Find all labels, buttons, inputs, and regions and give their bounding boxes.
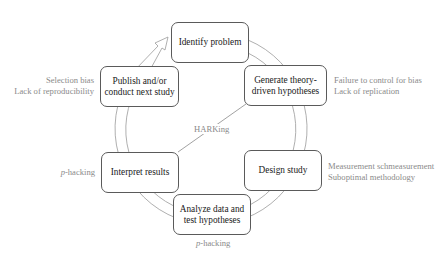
note-line: Suboptimal methodology (328, 172, 434, 183)
note-analyze-phacking: p-hacking (196, 238, 230, 249)
step-analyze-data: Analyze data and test hypotheses (173, 194, 251, 235)
note-line: Failure to control for bias (334, 75, 422, 86)
step-interpret-results: Interpret results (101, 152, 179, 193)
step-label: test hypotheses (180, 215, 245, 226)
step-label: Analyze data and (180, 204, 245, 215)
note-rest: -hacking (200, 238, 230, 248)
note-interpret-phacking: p-hacking (61, 167, 95, 178)
step-label: Design study (259, 165, 308, 176)
step-design-study: Design study (244, 150, 322, 191)
step-label: Interpret results (111, 167, 170, 178)
research-cycle-diagram: Identify problem Generate theory- driven… (0, 0, 447, 258)
step-label: driven hypotheses (252, 86, 319, 97)
step-identify-problem: Identify problem (171, 22, 249, 63)
note-line: Measurement schmeasurement (328, 161, 434, 172)
step-label: Identify problem (179, 37, 242, 48)
note-design-biases: Measurement schmeasurement Suboptimal me… (328, 161, 434, 183)
note-generate-biases: Failure to control for bias Lack of repl… (334, 75, 422, 97)
note-publish-biases: Selection bias Lack of reproducibility (14, 75, 94, 97)
step-label: Publish and/or (104, 76, 174, 87)
note-line: Lack of replication (334, 86, 422, 97)
harking-label: HARKing (193, 124, 230, 134)
note-line: Lack of reproducibility (14, 86, 94, 97)
note-line: Selection bias (14, 75, 94, 86)
step-generate-hypotheses: Generate theory- driven hypotheses (244, 65, 327, 106)
step-publish-study: Publish and/or conduct next study (100, 66, 179, 107)
note-rest: -hacking (65, 167, 95, 177)
step-label: Generate theory- (252, 75, 319, 86)
step-label: conduct next study (104, 87, 174, 98)
